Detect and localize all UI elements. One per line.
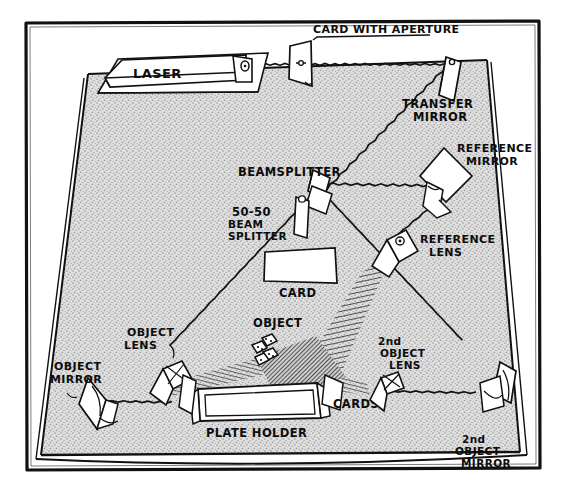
laser[interactable]: LASER <box>98 53 268 93</box>
diagram-canvas: LASER CARD WITH APERTURE TRANSFER MIRROR… <box>0 0 573 490</box>
transfer-mirror-label-line1: TRANSFER <box>402 97 473 111</box>
fifty-fifty-label-line3: SPLITTER <box>228 230 287 242</box>
fifty-fifty-label-line1: 50-50 <box>232 205 271 219</box>
second-object-lens-label-line1: 2nd <box>378 335 402 347</box>
reference-lens-label-line2: LENS <box>429 246 462 259</box>
object-lens-label-line2: LENS <box>124 339 157 352</box>
second-object-lens-label-line2: OBJECT <box>380 347 426 359</box>
second-object-mirror-label-line2: OBJECT <box>455 445 501 457</box>
reference-mirror-label-line1: REFERENCE <box>457 142 532 155</box>
object-mirror-label-line1: OBJECT <box>54 360 101 373</box>
second-object-mirror-label-line1: 2nd <box>462 433 486 445</box>
card-label: CARD <box>279 286 316 300</box>
fifty-fifty-label-line2: BEAM <box>228 218 263 230</box>
object-mirror-label-line2: MIRROR <box>50 373 102 386</box>
reference-mirror-label-line2: MIRROR <box>466 155 518 168</box>
beamsplitter-label: BEAMSPLITTER <box>238 165 341 179</box>
card-with-aperture-label: CARD WITH APERTURE <box>313 23 459 36</box>
object-label: OBJECT <box>253 316 302 330</box>
second-object-mirror-label-line3: MIRROR <box>461 457 511 469</box>
reference-lens-label-line1: REFERENCE <box>420 233 495 246</box>
laser-label: LASER <box>133 66 182 81</box>
holography-diagram: LASER CARD WITH APERTURE TRANSFER MIRROR… <box>0 0 573 490</box>
plate-left-card <box>179 375 196 414</box>
second-object-lens-label-line3: LENS <box>389 359 421 371</box>
object-lens-label-line1: OBJECT <box>127 326 174 339</box>
plateholder-label: PLATE HOLDER <box>206 426 307 440</box>
transfer-mirror-label-line2: MIRROR <box>413 110 467 124</box>
